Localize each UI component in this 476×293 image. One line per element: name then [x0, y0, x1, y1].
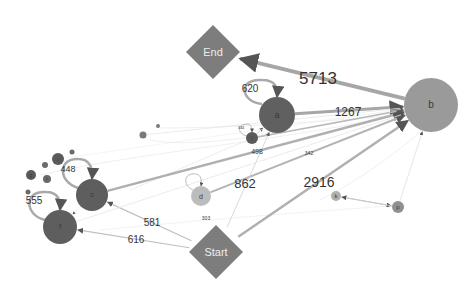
self-loop-label-f: 555: [26, 196, 43, 206]
node-label-t: t: [251, 136, 252, 141]
self-loop-label-t: 344: [238, 126, 245, 130]
faint-edge-layer: [40, 110, 420, 230]
edge-t-to-a[interactable]: [256, 128, 263, 134]
self-loop-label-a: 620: [242, 84, 259, 94]
node-label-k: k: [335, 193, 338, 199]
node-label-c: c: [90, 191, 94, 199]
activity-node-s1[interactable]: [42, 162, 48, 168]
node-label-g: g: [30, 173, 33, 178]
edge-p-to-k[interactable]: [342, 197, 392, 206]
activity-node-s5[interactable]: [156, 124, 160, 128]
edge-p-to-b[interactable]: [400, 132, 423, 202]
node-label-Start: Start: [204, 247, 227, 258]
edge-label-Start-f: 616: [128, 235, 145, 245]
edge-label-Start-b: 2916: [303, 175, 334, 189]
node-label-a: a: [274, 111, 279, 120]
edge-label-t-a: 498: [251, 148, 263, 155]
edge-c-to-f[interactable]: [73, 206, 81, 214]
edge-label-d-b: 862: [234, 177, 256, 190]
self-loop-label-d: 303: [202, 216, 210, 221]
activity-node-s4[interactable]: [140, 132, 147, 139]
edge-label-t-b: 342: [305, 151, 313, 156]
node-label-d: d: [199, 193, 203, 200]
self-loop-label-c: 448: [60, 165, 75, 174]
process-graph: [0, 0, 476, 293]
node-label-End: End: [203, 47, 223, 58]
node-label-i: i: [57, 157, 58, 162]
edge-label-Start-c: 581: [144, 218, 161, 228]
activity-node-s2[interactable]: [70, 150, 75, 155]
activity-node-s3[interactable]: [26, 190, 31, 195]
edge-label-a-b: 1267: [335, 106, 362, 118]
node-layer: [26, 25, 459, 279]
node-label-b: b: [428, 100, 434, 110]
node-label-p: p: [396, 204, 399, 210]
node-label-f: f: [59, 223, 61, 231]
node-label-h: h: [46, 177, 48, 181]
edge-label-b-End: 5713: [299, 70, 337, 87]
